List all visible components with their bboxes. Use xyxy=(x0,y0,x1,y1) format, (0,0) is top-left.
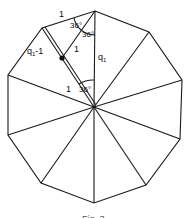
label-angle-top-left: 36° xyxy=(70,21,82,30)
label-angle-center: 36° xyxy=(79,85,91,94)
label-radius: q1 xyxy=(98,52,107,63)
label-angle-top-right: 36° xyxy=(82,30,94,39)
label-top-edge: 1 xyxy=(59,9,64,19)
marked-point xyxy=(59,55,64,60)
label-inner-segment: 1 xyxy=(74,44,79,54)
label-left-segment: q1-1 xyxy=(27,46,43,57)
decagon-diagram: 1 36° 36° 1 q1 q1-1 1 36° Fig. 3 xyxy=(0,0,186,218)
figure-caption: Fig. 3 xyxy=(82,214,105,218)
label-lower-segment: 1 xyxy=(66,84,71,94)
